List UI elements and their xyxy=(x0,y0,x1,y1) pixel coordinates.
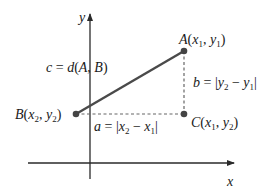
point-c-label: C(x1, y2) xyxy=(191,115,238,132)
segment-a-label: a = |x2 − x1| xyxy=(94,119,158,136)
segment-b-label: b = |y2 − y1| xyxy=(193,75,257,92)
point-b xyxy=(73,111,80,118)
point-a-label: A(x1, y1) xyxy=(178,32,226,49)
segment-c-label: c = d(A, B) xyxy=(46,60,108,76)
point-c xyxy=(181,111,188,118)
y-axis-label: y xyxy=(77,10,86,25)
point-a xyxy=(181,48,188,55)
distance-diagram: y x A(x1, y1) B(x2, y2) C(x1, y2) c = d(… xyxy=(0,0,273,191)
x-axis-label: x xyxy=(226,174,234,189)
point-b-label: B(x2, y2) xyxy=(15,107,62,124)
